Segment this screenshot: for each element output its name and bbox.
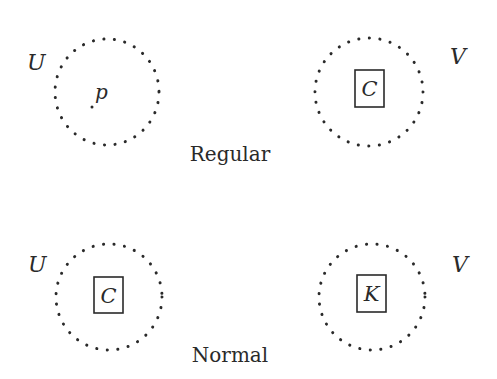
panel-title-normal: Normal [192,343,268,367]
panel-title-regular: Regular [190,142,271,166]
normal-neighborhood-u: U C [28,244,162,350]
regular-neighborhood-u: U p [27,39,159,145]
set-label-u: U [28,252,48,277]
normal-neighborhood-v: K V [319,244,470,350]
point-p-dot [91,106,94,109]
closed-set-label-k: K [363,282,381,306]
separation-axioms-diagram: U p C V Regular U C K V Normal [0,0,497,379]
set-label-u: U [27,50,47,75]
normal-panel: U C K V Normal [28,244,470,367]
closed-set-label-c: C [100,284,116,308]
point-label-p: p [95,80,108,104]
set-label-v: V [450,44,468,69]
closed-set-label-c: C [361,77,377,101]
regular-panel: U p C V Regular [27,38,468,166]
regular-neighborhood-v: C V [315,38,468,146]
set-label-v: V [452,252,470,277]
